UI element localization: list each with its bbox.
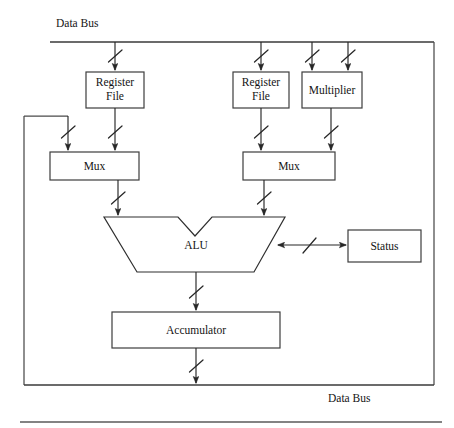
bus-tap-multiplier-a xyxy=(306,42,320,70)
bus-tap-register-file-right xyxy=(255,42,269,70)
block-register-file-left: Register File xyxy=(86,72,144,108)
alu-label: ALU xyxy=(184,239,208,251)
accumulator-label: Accumulator xyxy=(166,324,226,336)
block-accumulator: Accumulator xyxy=(112,312,280,348)
block-mux-left: Mux xyxy=(50,152,139,180)
link-regfile-left-to-mux-left xyxy=(109,108,123,150)
register-file-right-label-line2: File xyxy=(252,90,270,102)
mux-left-label: Mux xyxy=(84,160,106,172)
block-alu: ALU xyxy=(104,217,285,272)
link-feedback-to-mux-left xyxy=(62,116,76,150)
link-mux-left-to-alu xyxy=(112,180,126,215)
link-accumulator-to-bus xyxy=(190,348,204,383)
multiplier-label: Multiplier xyxy=(309,84,356,97)
link-alu-status xyxy=(278,238,346,253)
datapath-diagram: Register File Register File Multiplier xyxy=(0,0,454,428)
block-register-file-right: Register File xyxy=(233,72,289,108)
link-mux-right-to-alu xyxy=(258,180,272,215)
register-file-left-label-line2: File xyxy=(106,90,124,102)
bottom-data-bus-label: Data Bus xyxy=(328,392,371,404)
diagram-canvas: Register File Register File Multiplier xyxy=(0,0,454,428)
block-mux-right: Mux xyxy=(243,152,335,180)
link-multiplier-to-mux-right xyxy=(325,108,339,150)
link-regfile-right-to-mux-right xyxy=(255,108,269,150)
link-alu-to-accumulator xyxy=(190,272,204,310)
bus-tap-register-file-left xyxy=(109,42,123,70)
block-multiplier: Multiplier xyxy=(302,72,362,108)
bus-tap-multiplier-b xyxy=(342,42,356,70)
register-file-left-label-line1: Register xyxy=(96,76,134,89)
register-file-right-label-line1: Register xyxy=(242,76,280,89)
block-status: Status xyxy=(348,230,421,262)
mux-right-label: Mux xyxy=(278,160,300,172)
top-data-bus-label: Data Bus xyxy=(56,17,99,29)
status-label: Status xyxy=(370,240,399,252)
